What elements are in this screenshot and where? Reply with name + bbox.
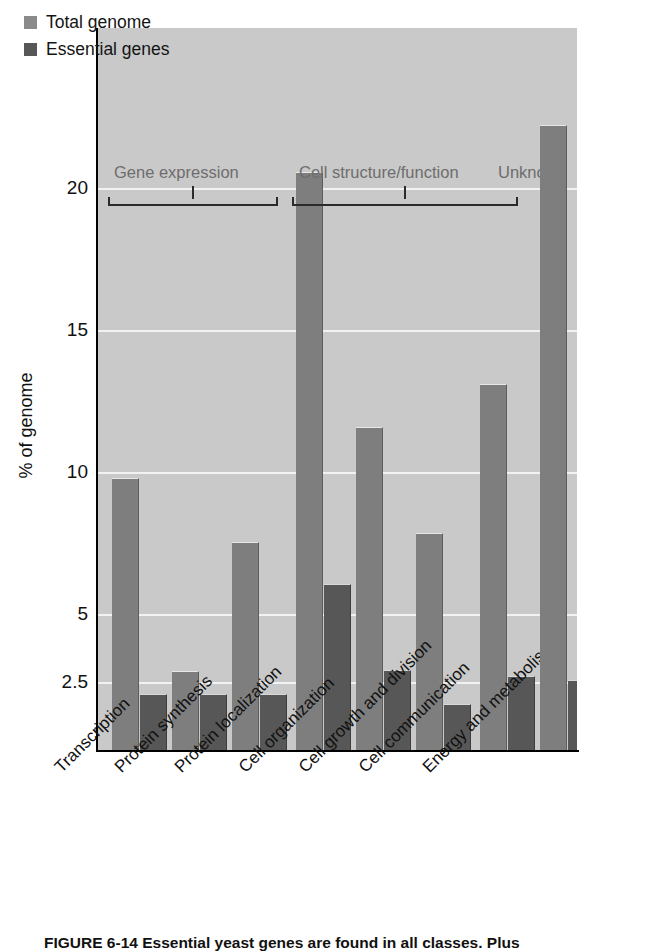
group-label-cell-structure-function: Cell structure/function [299, 163, 459, 182]
gridline-15 [96, 330, 577, 332]
legend-swatch-total-genome-icon [24, 16, 37, 29]
y-axis-line [96, 28, 98, 752]
legend-item-total-genome: Total genome [24, 14, 170, 32]
bracket-tick-gene-expression [192, 186, 194, 199]
y-tick-label-20: 20 [67, 177, 88, 199]
legend: Total genome Essential genes [24, 14, 170, 58]
x-axis-line [96, 750, 579, 752]
legend-item-essential-genes: Essential genes [24, 41, 170, 59]
y-tick-label-15: 15 [67, 319, 88, 341]
figure-container: Gene expression Cell structure/function … [0, 0, 647, 952]
y-tick-label-5: 5 [77, 603, 88, 625]
figure-caption: FIGURE 6-14 Essential yeast genes are fo… [44, 934, 624, 952]
bracket-gene-expression [108, 197, 278, 206]
bar-total-unknown [540, 125, 567, 750]
gridline-20 [96, 188, 577, 190]
y-axis-label: % of genome [16, 356, 37, 496]
y-axis-ticks: 20 15 10 5 2.5 [0, 0, 88, 952]
y-tick-label-10: 10 [67, 461, 88, 483]
bracket-tick-cell-structure-function [404, 186, 406, 199]
legend-swatch-essential-genes-icon [24, 43, 37, 56]
bar-essential-unknown [568, 680, 577, 750]
y-tick-label-2-5: 2.5 [62, 671, 88, 693]
legend-label-essential-genes: Essential genes [46, 41, 170, 59]
group-label-gene-expression: Gene expression [114, 163, 239, 182]
plot-area: Gene expression Cell structure/function … [96, 28, 577, 750]
bracket-cell-structure-function [292, 197, 518, 206]
bar-total-cell-organization [296, 172, 323, 750]
legend-label-total-genome: Total genome [46, 14, 151, 32]
